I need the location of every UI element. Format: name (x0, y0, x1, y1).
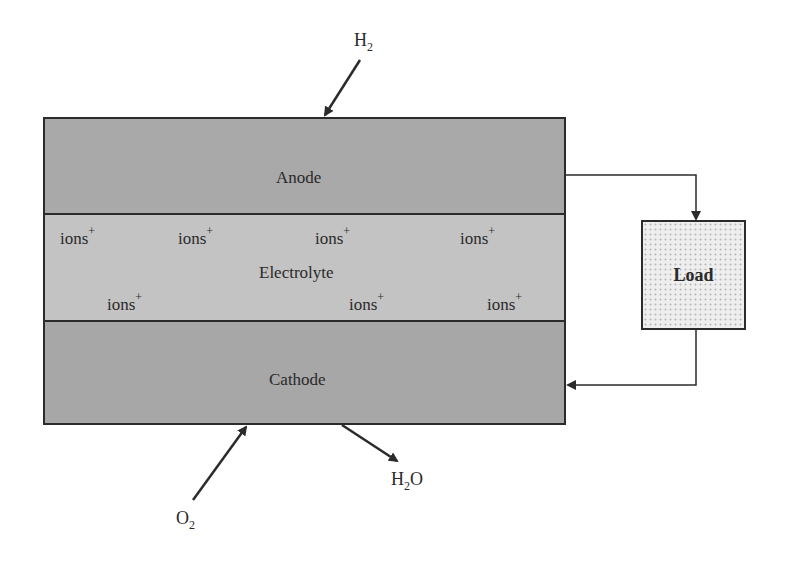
oxygen-input-arrow (193, 427, 246, 500)
ion-label: ions+ (107, 292, 142, 315)
ion-label: ions+ (460, 226, 495, 249)
load-to-cathode-wire (568, 330, 696, 385)
load-box: Load (641, 220, 746, 330)
oxygen-label: O2 (176, 508, 195, 533)
ion-label: ions+ (315, 226, 350, 249)
electrolyte-label: Electrolyte (259, 263, 334, 283)
anode-layer (43, 117, 566, 215)
anode-to-load-wire (566, 175, 696, 219)
load-label: Load (673, 265, 713, 286)
cathode-label: Cathode (269, 370, 326, 390)
ion-label: ions+ (349, 292, 384, 315)
water-label: H2O (391, 469, 423, 494)
anode-label: Anode (276, 168, 321, 188)
ion-label: ions+ (487, 292, 522, 315)
hydrogen-label: H2 (354, 30, 373, 55)
hydrogen-input-arrow (325, 60, 360, 115)
ion-label: ions+ (178, 226, 213, 249)
water-output-arrow (342, 425, 397, 461)
ion-label: ions+ (60, 226, 95, 249)
